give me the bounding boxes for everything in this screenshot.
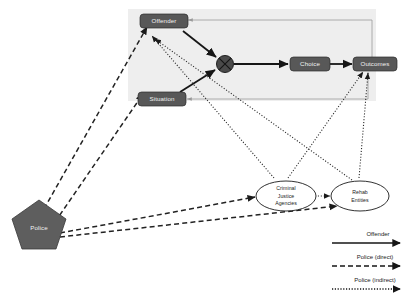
- legend-label-offender: Offender: [366, 231, 389, 237]
- node-situation[interactable]: Situation: [138, 92, 186, 106]
- diagram-canvas: Offender Situation Choice Outcomes Polic…: [0, 0, 418, 301]
- node-interaction-circle-x-icon[interactable]: [217, 56, 234, 73]
- node-police[interactable]: Police: [12, 200, 66, 249]
- legend-label-police-indirect: Police (indirect): [354, 277, 395, 283]
- node-rehab-label-line-1: Rehab: [352, 189, 368, 195]
- legend-item-police-direct: Police (direct): [332, 254, 400, 266]
- node-offender-label: Offender: [152, 17, 177, 24]
- node-rehab-entities[interactable]: Rehab Entities: [331, 181, 389, 211]
- diagram-svg: Offender Situation Choice Outcomes Polic…: [0, 0, 418, 301]
- node-cja-label-line-1: Criminal: [276, 185, 295, 191]
- node-cja-label-line-3: Agencies: [275, 200, 297, 206]
- node-situation-label: Situation: [150, 95, 175, 102]
- node-police-label: Police: [30, 224, 48, 231]
- node-choice[interactable]: Choice: [290, 57, 330, 71]
- node-choice-label: Choice: [300, 60, 320, 67]
- node-outcomes-label: Outcomes: [361, 60, 390, 67]
- legend-item-police-indirect: Police (indirect): [332, 277, 400, 289]
- node-outcomes[interactable]: Outcomes: [353, 57, 397, 71]
- edge-police-to-offender: [40, 27, 147, 216]
- legend: Offender Police (direct) Police (indirec…: [332, 231, 400, 289]
- node-offender[interactable]: Offender: [140, 14, 188, 28]
- node-criminal-justice-agencies[interactable]: Criminal Justice Agencies: [256, 181, 316, 211]
- edge-police-to-criminal-justice-agencies: [60, 197, 255, 233]
- legend-item-offender: Offender: [332, 231, 400, 243]
- node-cja-label-line-2: Justice: [278, 193, 295, 199]
- legend-label-police-direct: Police (direct): [357, 254, 394, 260]
- node-rehab-label-line-2: Entities: [351, 197, 369, 203]
